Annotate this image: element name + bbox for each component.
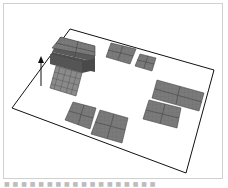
isometric-diagram [0,0,228,188]
figure-caption: ■ ■ ■ ■ ■ ■ ■ ■ ■ ■ ■ ■ ■ ■ ■ ■ ■ ■ [4,180,156,187]
